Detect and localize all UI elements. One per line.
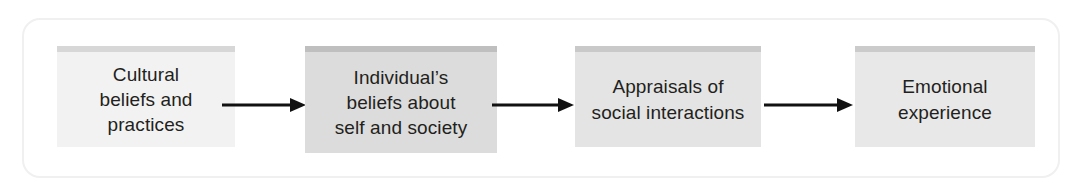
arrow-right-icon bbox=[492, 95, 574, 115]
flow-box-label: Appraisals of social interactions bbox=[584, 68, 753, 124]
flow-box-appraisals-social: Appraisals of social interactions bbox=[575, 46, 761, 147]
flow-box-emotional-experience: Emotional experience bbox=[855, 46, 1035, 147]
flow-box-label: Individual’s beliefs about self and soci… bbox=[327, 59, 476, 140]
flow-box-label: Cultural beliefs and practices bbox=[91, 56, 200, 137]
diagram-canvas: Cultural beliefs and practices Individua… bbox=[0, 0, 1087, 194]
arrow-right-icon bbox=[764, 95, 853, 115]
flow-box-top-bar bbox=[855, 46, 1035, 52]
flow-box-top-bar bbox=[575, 46, 761, 52]
flow-box-top-bar bbox=[305, 46, 497, 52]
flow-box-top-bar bbox=[57, 46, 235, 52]
flow-box-individual-beliefs: Individual’s beliefs about self and soci… bbox=[305, 46, 497, 153]
arrow-right-icon bbox=[222, 95, 306, 115]
flow-box-cultural-beliefs: Cultural beliefs and practices bbox=[57, 46, 235, 147]
flow-box-label: Emotional experience bbox=[890, 68, 1000, 124]
